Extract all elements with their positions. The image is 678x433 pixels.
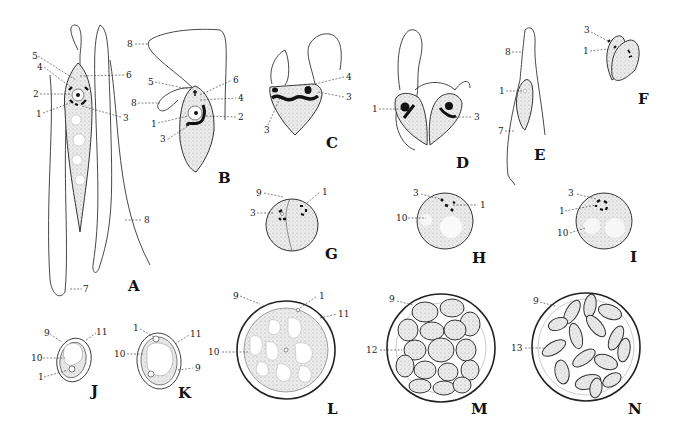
callout-number: 1 xyxy=(151,119,157,129)
callout-number: 8 xyxy=(131,98,137,108)
callout-number: 1 xyxy=(372,104,378,114)
callout-number: 10 xyxy=(208,347,220,357)
callout-number: 3 xyxy=(413,188,419,198)
panel-label-m: M xyxy=(471,400,488,418)
callout-number: 1 xyxy=(319,291,325,301)
panel-i: 3 1 10 I xyxy=(557,188,637,266)
panel-m: 9 12 M xyxy=(366,294,495,418)
panel-label-e: E xyxy=(534,146,545,164)
panel-label-n: N xyxy=(628,400,642,418)
callout-number: 7 xyxy=(83,284,89,294)
callout-number: 1 xyxy=(133,323,139,333)
callout-number: 3 xyxy=(346,92,352,102)
callout-number: 9 xyxy=(195,363,201,373)
panel-label-g: G xyxy=(325,245,338,263)
callout-number: 12 xyxy=(366,345,377,355)
callout-number: 9 xyxy=(533,296,539,306)
callout-number: 1 xyxy=(36,109,42,119)
illustration-plate: 5 4 2 1 6 3 8 7 A 8 5 8 1 3 6 4 2 B 4 3 xyxy=(0,0,678,433)
cell-body xyxy=(180,86,214,172)
callout-number: 7 xyxy=(498,126,504,136)
callout-number: 9 xyxy=(256,188,262,198)
panel-e: 8 1 7 E xyxy=(498,28,545,185)
cell-body xyxy=(516,80,532,130)
callout-number: 1 xyxy=(38,372,44,382)
panel-l: 9 1 11 10 L xyxy=(208,291,349,418)
callout-number: 3 xyxy=(250,208,256,218)
callout-number: 1 xyxy=(499,86,505,96)
callout-number: 1 xyxy=(583,46,589,56)
flagellum xyxy=(71,25,81,67)
callout-number: 6 xyxy=(126,70,132,80)
callout-number: 10 xyxy=(31,353,43,363)
callout-number: 3 xyxy=(568,188,574,198)
callout-number: 4 xyxy=(238,93,244,103)
callout-number: 10 xyxy=(114,349,126,359)
callout-number: 5 xyxy=(32,51,38,61)
callout-number: 3 xyxy=(160,134,166,144)
callout-number: 11 xyxy=(338,309,349,319)
callout-number: 3 xyxy=(123,113,129,123)
panel-b: 8 5 8 1 3 6 4 2 B xyxy=(127,29,244,187)
callout-number: 1 xyxy=(559,206,565,216)
callout-number: 9 xyxy=(389,294,395,304)
callout-number: 10 xyxy=(396,213,408,223)
blastomeres xyxy=(396,299,480,395)
callout-number: 13 xyxy=(511,343,523,353)
callout-number: 3 xyxy=(584,25,590,35)
panel-h: 3 1 10 H xyxy=(396,188,486,267)
callout-number: 5 xyxy=(148,77,154,87)
callout-number: 11 xyxy=(190,329,201,339)
spores xyxy=(540,293,632,399)
panel-label-k: K xyxy=(178,384,192,402)
callout-number: 1 xyxy=(322,187,328,197)
panel-label-l: L xyxy=(327,400,338,418)
panel-label-h: H xyxy=(472,249,486,267)
cell-right xyxy=(429,94,462,145)
callout-number: 3 xyxy=(264,125,270,135)
panel-d: 1 3 D xyxy=(372,30,480,172)
callout-number: 4 xyxy=(346,72,352,82)
panel-j: 9 11 10 1 J xyxy=(31,327,107,400)
panel-label-f: F xyxy=(638,90,649,108)
panel-n: 9 13 N xyxy=(511,293,642,418)
panel-label-i: I xyxy=(630,248,637,266)
panel-label-c: C xyxy=(326,134,338,152)
callout-number: 8 xyxy=(505,47,511,57)
callout-number: 11 xyxy=(96,327,107,337)
callout-number: 6 xyxy=(233,75,239,85)
callout-number: 8 xyxy=(127,39,133,49)
callout-number: 4 xyxy=(37,62,43,72)
cell-body xyxy=(270,84,322,135)
cell-left xyxy=(395,93,427,145)
panel-k: 1 11 10 9 K xyxy=(114,323,201,402)
callout-number: 3 xyxy=(474,112,480,122)
callout-number: 2 xyxy=(238,112,244,122)
callout-number: 9 xyxy=(44,328,50,338)
panel-c: 4 3 3 C xyxy=(264,34,352,152)
panel-a: 5 4 2 1 6 3 8 7 A xyxy=(32,25,150,296)
panel-label-j: J xyxy=(89,382,98,400)
callout-number: 8 xyxy=(144,215,150,225)
panel-label-d: D xyxy=(456,154,469,172)
panel-label-b: B xyxy=(218,169,231,187)
panel-f: 3 1 F xyxy=(583,25,649,108)
callout-number: 9 xyxy=(233,291,239,301)
panel-g: 9 1 3 G xyxy=(250,187,338,263)
panel-label-a: A xyxy=(127,277,140,295)
callout-number: 10 xyxy=(557,228,569,238)
callout-number: 2 xyxy=(33,89,39,99)
callout-number: 1 xyxy=(480,200,486,210)
